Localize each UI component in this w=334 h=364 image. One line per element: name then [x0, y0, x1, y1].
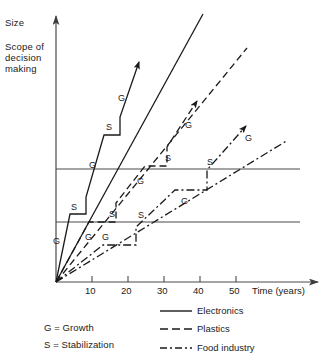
plastics-marker-g1: G: [85, 232, 92, 242]
plastics-marker-g2: G: [137, 176, 144, 186]
food-marker-s2: S: [207, 157, 213, 167]
x-tick-label-10: 10: [85, 285, 96, 296]
legend-label-electronics: Electronics: [197, 305, 243, 316]
food-marker-g3: G: [245, 133, 252, 143]
plastics-marker-s2: S: [165, 153, 171, 163]
growth-stabilization-chart: Size Scope of decision making: [0, 0, 334, 364]
x-axis-ticks: [92, 276, 236, 282]
electronics-marker-g1: G: [53, 236, 60, 246]
x-tick-label-20: 20: [121, 285, 132, 296]
plastics-trend-line: [56, 48, 247, 282]
food-step-path: [56, 126, 246, 282]
electronics-marker-g3: G: [118, 93, 125, 103]
series-food-industry: [56, 126, 288, 282]
food-marker-s1: S: [138, 210, 144, 220]
electronics-marker-s1: S: [71, 202, 77, 212]
legend-sample-lines: [160, 311, 192, 348]
food-marker-g1: G: [102, 232, 109, 242]
x-tick-label-30: 30: [157, 285, 168, 296]
food-marker-g2: G: [181, 196, 188, 206]
x-axis-title: Time (years): [252, 285, 305, 296]
legend-key-growth: G = Growth: [44, 322, 94, 333]
x-tick-label-50: 50: [229, 285, 240, 296]
plastics-marker-g3: G: [185, 120, 192, 130]
plastics-step-path: [56, 101, 197, 282]
legend-label-food-industry: Food industry: [197, 342, 255, 353]
series-plastics: [56, 48, 247, 282]
legend-key-stabilization: S = Stabilization: [44, 339, 114, 350]
electronics-marker-s2: S: [106, 122, 112, 132]
plastics-marker-s1: S: [109, 209, 115, 219]
legend-label-plastics: Plastics: [197, 323, 230, 334]
x-tick-label-40: 40: [193, 285, 204, 296]
plot-area: [0, 0, 334, 364]
electronics-marker-g2: G: [89, 160, 96, 170]
